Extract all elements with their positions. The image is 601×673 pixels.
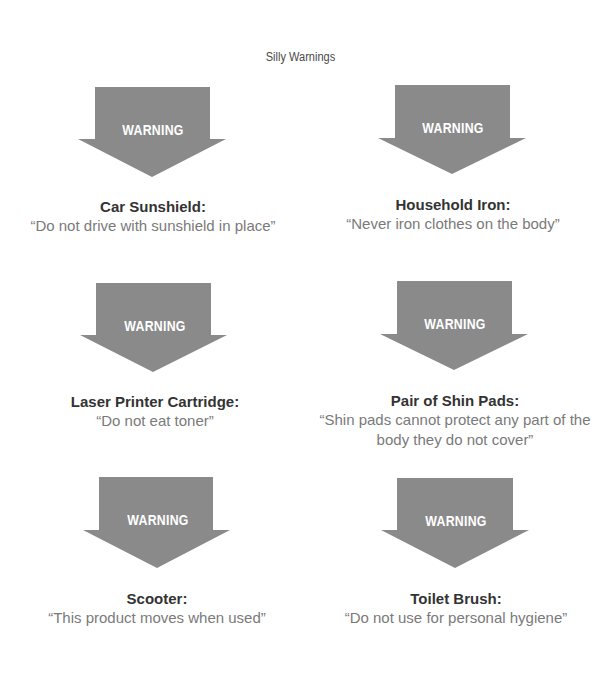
warning-quote: “Shin pads cannot protect any part of th… xyxy=(305,410,601,450)
warning-label: WARNING xyxy=(89,318,221,334)
warning-text-shin-pads: Pair of Shin Pads: “Shin pads cannot pro… xyxy=(305,392,601,450)
warning-arrow-scooter: WARNING xyxy=(83,477,233,569)
warning-text-scooter: Scooter: “This product moves when used” xyxy=(7,590,307,628)
warning-label: WARNING xyxy=(389,316,521,332)
warning-quote: “Do not use for personal hygiene” xyxy=(306,608,601,628)
warning-text-laser-printer-cartridge: Laser Printer Cartridge: “Do not eat ton… xyxy=(5,393,305,431)
warning-arrow-car-sunshield: WARNING xyxy=(78,87,228,179)
warning-quote: “Do not eat toner” xyxy=(5,411,305,431)
warning-label: WARNING xyxy=(387,120,519,136)
warning-text-car-sunshield: Car Sunshield: “Do not drive with sunshi… xyxy=(3,198,303,236)
warning-text-household-iron: Household Iron: “Never iron clothes on t… xyxy=(303,196,601,234)
warning-arrow-household-iron: WARNING xyxy=(378,85,528,177)
product-name: Scooter: xyxy=(7,590,307,608)
warning-quote: “Never iron clothes on the body” xyxy=(303,214,601,234)
warning-label: WARNING xyxy=(87,122,219,138)
product-name: Pair of Shin Pads: xyxy=(305,392,601,410)
warning-arrow-toilet-brush: WARNING xyxy=(381,478,531,570)
warning-arrow-shin-pads: WARNING xyxy=(380,281,530,373)
product-name: Toilet Brush: xyxy=(306,590,601,608)
product-name: Car Sunshield: xyxy=(3,198,303,216)
product-name: Laser Printer Cartridge: xyxy=(5,393,305,411)
warning-label: WARNING xyxy=(92,512,224,528)
warning-quote: “Do not drive with sunshield in place” xyxy=(3,216,303,236)
warning-arrow-laser-printer-cartridge: WARNING xyxy=(80,283,230,375)
product-name: Household Iron: xyxy=(303,196,601,214)
warning-quote: “This product moves when used” xyxy=(7,608,307,628)
warning-text-toilet-brush: Toilet Brush: “Do not use for personal h… xyxy=(306,590,601,628)
page-title: Silly Warnings xyxy=(24,50,577,64)
warning-label: WARNING xyxy=(390,513,522,529)
